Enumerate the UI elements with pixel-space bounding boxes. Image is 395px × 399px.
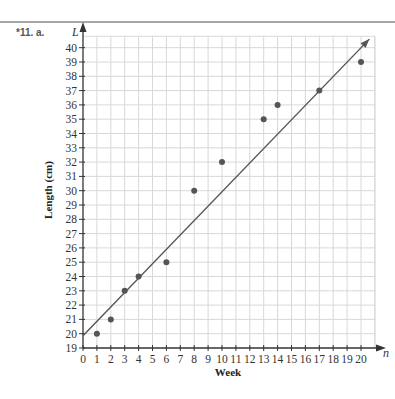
y-tick-label: 33: [66, 142, 78, 154]
data-point: [163, 259, 169, 265]
y-tick-label: 27: [66, 228, 78, 240]
y-axis-title: Length (cm): [42, 161, 55, 219]
x-tick-label: 8: [191, 353, 197, 365]
y-tick-label: 24: [66, 271, 78, 283]
x-tick-label: 18: [327, 353, 339, 365]
data-point: [136, 274, 142, 280]
y-tick-label: 26: [66, 242, 78, 254]
data-point: [122, 288, 128, 294]
y-tick-label: 34: [66, 128, 78, 140]
y-tick-label: 30: [66, 185, 78, 197]
y-tick-label: 23: [66, 285, 78, 297]
data-point: [316, 88, 322, 94]
y-tick-label: 28: [66, 213, 78, 225]
x-tick-label: 4: [136, 353, 142, 365]
y-tick-label: 22: [66, 299, 78, 311]
x-tick-label: 12: [244, 353, 256, 365]
y-tick-label: 31: [66, 170, 78, 182]
y-axis-ticks: 1920212223242526272829303132333435363738…: [66, 42, 86, 354]
x-tick-label: 10: [216, 353, 228, 365]
x-axis-title: Week: [215, 366, 242, 378]
x-tick-label: 14: [272, 353, 284, 365]
data-point: [191, 188, 197, 194]
y-tick-label: 38: [66, 70, 78, 82]
data-point: [94, 331, 100, 337]
y-tick-label: 39: [66, 56, 78, 68]
y-tick-label: 20: [66, 328, 78, 340]
x-tick-label: 15: [286, 353, 298, 365]
x-tick-label: 11: [230, 353, 241, 365]
x-tick-label: 17: [314, 353, 326, 365]
y-tick-label: 35: [66, 113, 78, 125]
y-tick-label: 32: [66, 156, 78, 168]
x-tick-label: 1: [94, 353, 100, 365]
x-tick-label: 6: [164, 353, 170, 365]
data-point: [275, 102, 281, 108]
data-point: [261, 116, 267, 122]
y-tick-label: 19: [66, 342, 78, 354]
data-point: [358, 59, 364, 65]
y-tick-label: 37: [66, 85, 78, 97]
grid: [83, 36, 375, 348]
y-tick-label: 25: [66, 256, 78, 268]
scatter-chart: 01234567891011121314151617181920 1920212…: [0, 0, 395, 399]
x-tick-label: 5: [150, 353, 156, 365]
data-point: [108, 316, 114, 322]
data-points: [94, 59, 364, 337]
x-tick-label: 16: [300, 353, 312, 365]
y-tick-label: 29: [66, 199, 78, 211]
y-tick-label: 36: [66, 99, 78, 111]
x-tick-label: 19: [341, 353, 353, 365]
axes: [80, 22, 387, 352]
y-tick-label: 40: [66, 42, 78, 54]
x-axis-variable: n: [383, 346, 389, 360]
data-point: [219, 159, 225, 165]
x-tick-label: 3: [122, 353, 128, 365]
x-tick-label: 9: [205, 353, 211, 365]
x-tick-label: 7: [177, 353, 183, 365]
x-tick-label: 2: [108, 353, 114, 365]
x-tick-label: 20: [355, 353, 367, 365]
y-tick-label: 21: [66, 313, 78, 325]
y-axis-variable: L: [71, 25, 79, 39]
x-tick-label: 0: [80, 353, 86, 365]
x-tick-label: 13: [258, 353, 270, 365]
